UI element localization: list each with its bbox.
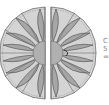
rosette-svg <box>0 0 109 105</box>
side-text-fragment: C 5 = <box>103 37 109 61</box>
right-half-dodecagon <box>51 7 96 99</box>
diagram-figure: C 5 = <box>0 0 109 105</box>
left-half-dodecagon <box>0 7 45 99</box>
